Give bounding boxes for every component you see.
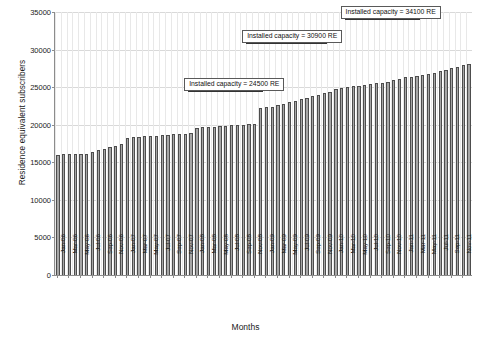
y-tick-label: 30000: [30, 45, 51, 54]
x-tick-label: Jan-06: [59, 234, 66, 278]
x-tick-label: Mar-11: [419, 234, 426, 278]
y-tick-label: 10000: [30, 195, 51, 204]
x-tick-label: Nov-06: [117, 234, 124, 278]
x-tick-label: Jan-11: [407, 234, 414, 278]
x-tick-mark: [57, 275, 58, 278]
x-tick-mark: [92, 275, 93, 278]
x-tick-label: Jul-09: [303, 234, 310, 278]
x-tick-label: Nov-10: [395, 234, 402, 278]
x-tick-mark: [126, 275, 127, 278]
x-tick-mark: [150, 275, 151, 278]
x-tick-label: Jul-10: [372, 234, 379, 278]
x-tick-mark: [231, 275, 232, 278]
annotation-line: [246, 43, 327, 44]
x-tick-mark: [254, 275, 255, 278]
x-tick-mark: [346, 275, 347, 278]
x-tick-label: Sep-10: [384, 234, 391, 278]
x-tick-mark: [184, 275, 185, 278]
x-tick-mark: [416, 275, 417, 278]
x-tick-mark: [289, 275, 290, 278]
x-tick-mark: [265, 275, 266, 278]
annotation-line: [345, 19, 420, 20]
x-tick-label: Jul-07: [164, 234, 171, 278]
y-tick-label: 5000: [34, 233, 51, 242]
y-axis-title: Residence equivalent subscribers: [18, 23, 27, 223]
x-tick-label: Mar-07: [141, 234, 148, 278]
x-tick-label: Nov-08: [256, 234, 263, 278]
x-tick-mark: [219, 275, 220, 278]
x-tick-label: May-08: [222, 234, 229, 278]
x-tick-mark: [358, 275, 359, 278]
annotation-label: Installed capacity = 34100 RE: [341, 6, 441, 19]
y-tick-mark: [52, 275, 55, 276]
annotation-line: [188, 91, 263, 92]
x-tick-label: Mar-10: [349, 234, 356, 278]
x-tick-mark: [312, 275, 313, 278]
y-tick-label: 15000: [30, 158, 51, 167]
x-tick-label: Nov-11: [465, 234, 472, 278]
x-tick-label: May-07: [152, 234, 159, 278]
x-tick-mark: [103, 275, 104, 278]
x-tick-mark: [115, 275, 116, 278]
x-tick-mark: [173, 275, 174, 278]
annotation-label: Installed capacity = 30900 RE: [242, 30, 342, 43]
x-tick-label: Nov-07: [187, 234, 194, 278]
x-tick-mark: [404, 275, 405, 278]
x-tick-label: May-11: [430, 234, 437, 278]
x-tick-mark: [68, 275, 69, 278]
x-tick-mark: [335, 275, 336, 278]
y-tick-label: 20000: [30, 120, 51, 129]
x-tick-label: May-06: [83, 234, 90, 278]
x-tick-mark: [277, 275, 278, 278]
x-tick-label: Sep-11: [453, 234, 460, 278]
x-tick-mark: [196, 275, 197, 278]
x-tick-label: Sep-07: [175, 234, 182, 278]
x-tick-mark: [370, 275, 371, 278]
y-tick-label: 25000: [30, 83, 51, 92]
x-tick-label: Sep-09: [314, 234, 321, 278]
x-tick-label: Jan-07: [129, 234, 136, 278]
x-tick-label: Jul-06: [94, 234, 101, 278]
x-tick-mark: [138, 275, 139, 278]
x-tick-label: Jul-11: [442, 234, 449, 278]
x-tick-label: Mar-08: [210, 234, 217, 278]
x-tick-label: Nov-09: [326, 234, 333, 278]
x-axis-title: Months: [0, 322, 491, 332]
x-tick-label: Jan-08: [198, 234, 205, 278]
x-tick-label: May-10: [361, 234, 368, 278]
x-tick-mark: [439, 275, 440, 278]
x-tick-label: Sep-06: [106, 234, 113, 278]
x-tick-mark: [242, 275, 243, 278]
x-tick-mark: [300, 275, 301, 278]
x-tick-mark: [207, 275, 208, 278]
y-tick-label: 35000: [30, 8, 51, 17]
x-tick-mark: [451, 275, 452, 278]
x-tick-mark: [462, 275, 463, 278]
x-tick-label: Mar-06: [71, 234, 78, 278]
x-tick-label: Jan-10: [337, 234, 344, 278]
x-tick-label: Sep-08: [245, 234, 252, 278]
x-tick-mark: [161, 275, 162, 278]
x-tick-mark: [80, 275, 81, 278]
x-tick-mark: [323, 275, 324, 278]
x-tick-label: Jul-08: [233, 234, 240, 278]
x-tick-mark: [393, 275, 394, 278]
x-tick-label: Jan-09: [268, 234, 275, 278]
x-tick-label: May-09: [291, 234, 298, 278]
x-axis-ticks: Jan-06Mar-06May-06Jul-06Sep-06Nov-06Jan-…: [54, 278, 472, 322]
x-tick-label: Mar-09: [280, 234, 287, 278]
bar-chart: Residence equivalent subscribers 0500010…: [0, 0, 491, 339]
y-tick-label: 0: [47, 271, 51, 280]
annotation-label: Installed capacity = 24500 RE: [184, 78, 284, 91]
x-tick-mark: [428, 275, 429, 278]
x-tick-mark: [381, 275, 382, 278]
